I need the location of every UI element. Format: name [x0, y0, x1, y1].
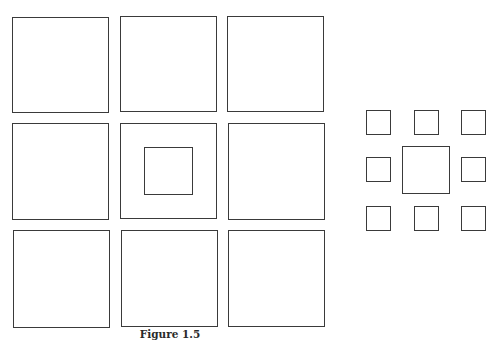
inner-small-square	[144, 147, 193, 195]
grid-square	[12, 17, 109, 113]
surrounding-small-square	[414, 110, 439, 135]
surrounding-small-square	[461, 110, 486, 135]
grid-square	[227, 16, 324, 112]
surrounding-small-square	[461, 157, 486, 182]
grid-square	[228, 123, 325, 220]
grid-square	[12, 123, 109, 220]
center-large-square	[402, 146, 450, 194]
grid-square	[121, 230, 218, 327]
surrounding-small-square	[461, 206, 486, 231]
grid-square	[228, 230, 325, 327]
grid-square	[120, 16, 217, 112]
surrounding-small-square	[414, 206, 439, 231]
surrounding-small-square	[366, 110, 391, 135]
grid-square	[13, 230, 110, 328]
figure-caption: Figure 1.5	[0, 328, 340, 340]
surrounding-small-square	[366, 206, 391, 231]
surrounding-small-square	[366, 157, 391, 182]
